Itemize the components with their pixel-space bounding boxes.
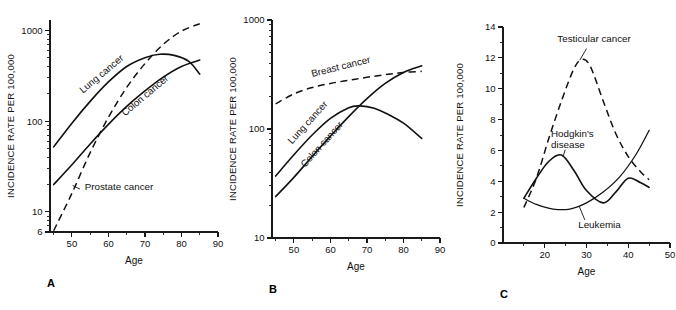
x-axis-ticks: 5060708090 (276, 238, 446, 255)
panel-b-svg: 1010010005060708090AgeINCIDENCE RATE PER… (222, 0, 446, 310)
y-tick-label: 8 (490, 114, 495, 125)
x-tick-label: 60 (325, 244, 336, 255)
series-group (54, 24, 200, 231)
panel-letter: A (47, 277, 55, 289)
x-tick-label: 30 (581, 249, 592, 260)
y-tick-label: 1000 (243, 14, 264, 25)
x-tick-label: 80 (398, 244, 409, 255)
chart-panel-a: 10100100065060708090AgeINCIDENCE RATE PE… (0, 0, 224, 310)
y-tick-label: 4 (490, 176, 495, 187)
y-axis-title: INCIDENCE RATE PER 100,000 (227, 57, 238, 201)
y-tick-label: 6 (490, 145, 495, 156)
axes: 1010010005060708090 (243, 14, 445, 255)
series-label: Testicular cancer (557, 33, 631, 44)
y-tick-label: 10 (254, 232, 265, 243)
x-tick-label: 40 (623, 249, 634, 260)
x-axis-title: Age (125, 255, 143, 266)
x-tick-label: 80 (176, 238, 187, 249)
x-axis-ticks: 20304050 (524, 243, 675, 260)
x-axis-ticks: 5060708090 (54, 232, 224, 249)
x-tick-label: 70 (362, 244, 373, 255)
x-tick-label: 50 (67, 238, 78, 249)
series-labels: Breast cancerLung cancerColon cancer (285, 53, 372, 169)
panel-c-svg: 0246810121420304050AgeINCIDENCE RATE PER… (446, 0, 676, 310)
y-tick-label: 10 (32, 206, 43, 217)
y-tick-label: 14 (485, 21, 496, 32)
series-label: Breast cancer (310, 53, 372, 78)
series-curve (54, 60, 200, 184)
y-tick-label: 6 (37, 226, 42, 237)
series-curve (54, 24, 200, 231)
x-tick-label: 50 (665, 249, 676, 260)
y-axis-ticks: 1010010006 (21, 25, 50, 238)
y-tick-label: 100 (27, 116, 43, 127)
x-axis-title: Age (347, 261, 365, 272)
y-tick-label: 2 (490, 207, 495, 218)
series-label: disease (551, 139, 585, 150)
y-tick-label: 100 (249, 123, 265, 134)
x-axis-title: Age (578, 266, 596, 277)
y-tick-label: 10 (485, 83, 496, 94)
panel-a-svg: 10100100065060708090AgeINCIDENCE RATE PE… (0, 0, 224, 310)
x-tick-label: 60 (103, 238, 114, 249)
series-label: Hodgkin's (551, 128, 594, 139)
chart-panel-b: 1010010005060708090AgeINCIDENCE RATE PER… (222, 0, 446, 310)
x-tick-label: 70 (140, 238, 151, 249)
y-axis-title: INCIDENCE RATE PER 100,000 (454, 63, 465, 207)
panel-letter: B (269, 283, 277, 295)
y-tick-label: 12 (485, 52, 496, 63)
y-axis-ticks: 101001000 (243, 14, 272, 243)
y-tick-label: 0 (490, 237, 495, 248)
x-tick-label: 20 (539, 249, 550, 260)
x-tick-label: 50 (289, 244, 300, 255)
y-axis-title: INCIDENCE RATE PER 100,000 (5, 54, 16, 198)
x-tick-label: 90 (435, 244, 446, 255)
series-label: Leukemia (578, 219, 621, 230)
y-axis-ticks: 02468101214 (485, 21, 503, 248)
cancer-incidence-figure: 10100100065060708090AgeINCIDENCE RATE PE… (0, 0, 676, 310)
series-curve (276, 71, 422, 104)
series-label: Prostate cancer (85, 181, 154, 192)
panel-letter: C (500, 288, 508, 300)
y-tick-label: 1000 (21, 25, 42, 36)
chart-panel-c: 0246810121420304050AgeINCIDENCE RATE PER… (446, 0, 676, 310)
series-label: Colon cancer (119, 72, 171, 118)
axes: 10100100065060708090 (21, 20, 223, 249)
series-labels: Lung cancerColon cancerProstate cancer (73, 52, 171, 192)
